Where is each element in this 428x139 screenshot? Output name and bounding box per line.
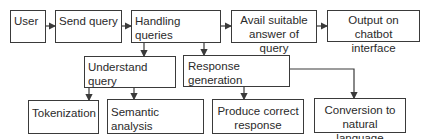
node-label-line2: chatbot interface xyxy=(328,27,419,55)
node-label-line2: answer of query xyxy=(232,27,316,55)
node-label-line1: Conversion to xyxy=(315,103,405,117)
node-avail-answer: Avail suitable answer of query xyxy=(231,10,317,43)
node-label: Understand query xyxy=(85,60,175,88)
node-label: Handling queries xyxy=(132,14,220,42)
arrow-response-conversion xyxy=(290,69,354,98)
node-label: User xyxy=(11,14,45,28)
node-conversion-natural-language: Conversion to natural language xyxy=(314,98,406,133)
node-label: Send query xyxy=(56,14,121,28)
node-label-line1: Avail suitable xyxy=(232,13,316,27)
node-output-chatbot: Output on chatbot interface xyxy=(327,10,420,42)
node-send-query: Send query xyxy=(55,10,122,43)
node-tokenization: Tokenization xyxy=(28,100,99,134)
node-label-line1: Produce correct xyxy=(213,104,303,118)
node-response-generation: Response generation xyxy=(183,55,290,87)
node-understand-query: Understand query xyxy=(84,56,176,88)
node-label: Response generation xyxy=(185,59,289,87)
node-label: Semantic analysis xyxy=(108,105,203,133)
node-handling-queries: Handling queries xyxy=(131,10,221,43)
node-label-line2: response xyxy=(213,118,303,132)
node-label-line2: natural language xyxy=(315,117,405,139)
node-label-line1: Output on xyxy=(328,13,419,27)
node-semantic-analysis: Semantic analysis xyxy=(107,99,204,134)
node-user: User xyxy=(10,10,46,43)
node-label: Tokenization xyxy=(29,106,98,120)
node-produce-correct-response: Produce correct response xyxy=(212,99,304,134)
